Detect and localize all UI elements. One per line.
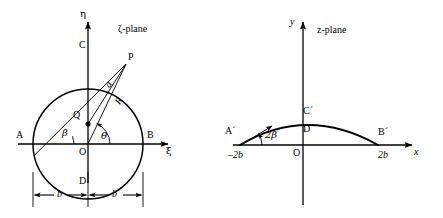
tick-label-x-min: –2b	[228, 150, 243, 160]
annotation-label-two-beta: 2β	[265, 130, 277, 140]
point-label-D-prime: D´	[303, 124, 314, 134]
figure-canvas	[0, 0, 443, 218]
point-label-P: P	[128, 52, 134, 62]
annotation-label-theta: θ	[101, 131, 107, 141]
point-label-O: O	[79, 147, 86, 157]
point-label-A-prime: A´	[225, 126, 236, 136]
tick-label-x-max: 2b	[378, 150, 388, 160]
angle-beta-arc	[72, 136, 74, 144]
point-label-C-prime: C´	[303, 106, 313, 116]
point-label-Q: Q	[73, 110, 80, 120]
x-axis-label: x	[414, 147, 418, 157]
point-label-O-prime: O	[293, 148, 300, 158]
right-panel-group	[233, 22, 412, 205]
annotation-label-beta: β	[62, 128, 68, 138]
segment-QP-a	[88, 64, 126, 124]
point-Q-dot	[85, 121, 90, 126]
conformal-mapping-figure: η ζ-plane ξ C D A B O P Q a R θ β b b y …	[0, 0, 443, 218]
point-label-D: D	[79, 176, 86, 186]
z-plane-label: z-plane	[317, 25, 346, 35]
point-label-C: C	[79, 40, 86, 50]
y-axis-label: y	[290, 17, 294, 27]
dimension-label-b-left: b	[57, 189, 62, 199]
point-label-B-prime: B´	[378, 127, 388, 137]
point-label-B: B	[147, 130, 154, 140]
point-label-A: A	[16, 130, 23, 140]
dimension-label-b-right: b	[112, 189, 117, 199]
zeta-plane-label: ζ-plane	[118, 24, 147, 34]
xi-axis-label: ξ	[166, 146, 172, 156]
left-panel-group	[18, 22, 168, 207]
eta-axis-label: η	[80, 9, 86, 19]
